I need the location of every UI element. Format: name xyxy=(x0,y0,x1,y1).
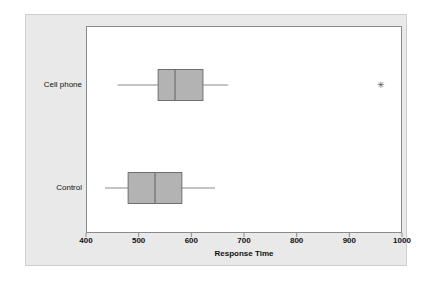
box-series-layer: ✳ xyxy=(105,70,385,204)
outlier-marker: ✳ xyxy=(377,80,385,90)
x-axis-tick-marks xyxy=(86,233,402,237)
boxplot-graphics: ✳ xyxy=(0,0,432,286)
boxplot-screenshot: Cell phone Control 400 500 600 700 800 9… xyxy=(0,0,432,286)
box-control xyxy=(105,173,215,204)
box-cell-phone: ✳ xyxy=(118,70,385,101)
